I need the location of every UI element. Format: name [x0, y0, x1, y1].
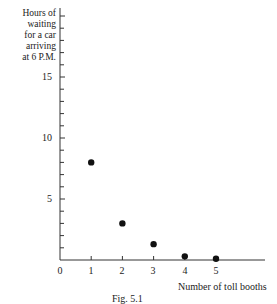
x-tick-label-4: 4: [179, 265, 191, 276]
x-tick-label-0: 0: [54, 265, 66, 276]
x-tick-label-1: 1: [85, 265, 97, 276]
x-tick-label-2: 2: [116, 265, 128, 276]
x-ticks: [91, 256, 216, 260]
data-point: [119, 220, 125, 226]
x-tick-label-3: 3: [147, 265, 159, 276]
y-tick-label-10: 10: [32, 132, 52, 143]
data-point: [182, 253, 188, 259]
data-points: [88, 159, 219, 262]
x-tick-label-5: 5: [210, 265, 222, 276]
y-tick-label-15: 15: [32, 71, 52, 82]
y-ticks: [60, 16, 65, 248]
y-tick-label-5: 5: [32, 193, 52, 204]
data-point: [150, 241, 156, 247]
data-point: [88, 159, 94, 165]
data-point: [213, 256, 219, 262]
x-axis-label: Number of toll booths: [178, 281, 267, 292]
figure-caption: Fig. 5.1: [112, 293, 143, 304]
